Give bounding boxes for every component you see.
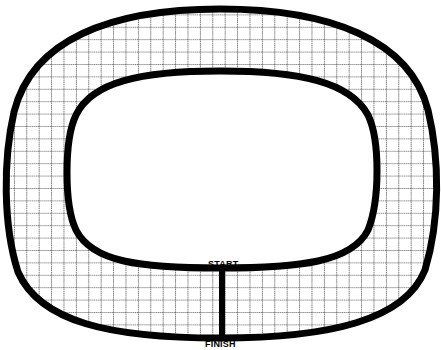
start-label: START bbox=[208, 259, 238, 269]
finish-label: FINISH bbox=[205, 339, 236, 349]
race-track-diagram bbox=[0, 0, 441, 350]
